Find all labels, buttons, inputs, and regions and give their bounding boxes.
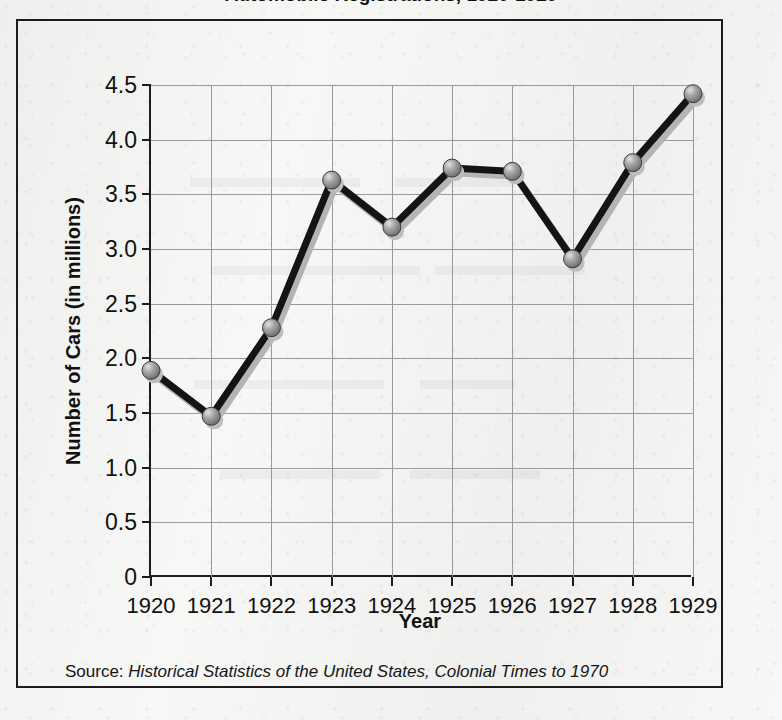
figure-frame: 00.51.01.52.02.53.03.54.04.5 19201921192… bbox=[16, 19, 723, 688]
y-tick-mark bbox=[142, 357, 151, 359]
source-note: Source: Historical Statistics of the Uni… bbox=[65, 662, 608, 682]
y-tick-mark bbox=[142, 84, 151, 86]
data-point-marker[interactable]: 1922: 2.28 bbox=[262, 319, 280, 337]
y-axis-title: Number of Cars (in millions) bbox=[62, 85, 88, 577]
chart-title: Automobile Registrations, 1920-1929 bbox=[0, 0, 782, 6]
data-point-marker[interactable]: 1920: 1.89 bbox=[142, 361, 160, 379]
x-tick-mark bbox=[692, 577, 694, 586]
y-tick-label: 1.0 bbox=[105, 454, 137, 481]
source-reference: Historical Statistics of the United Stat… bbox=[128, 662, 608, 681]
data-point-marker[interactable]: 1928: 3.79 bbox=[624, 154, 642, 172]
chart-page: Automobile Registrations, 1920-1929 00.5… bbox=[0, 0, 782, 720]
y-tick-label: 2.5 bbox=[105, 290, 137, 317]
x-tick-mark bbox=[632, 577, 634, 586]
data-point-marker[interactable]: 1929: 4.42 bbox=[684, 85, 702, 103]
y-tick-mark bbox=[142, 303, 151, 305]
data-point-marker[interactable]: 1926: 3.71 bbox=[503, 162, 521, 180]
y-tick-mark bbox=[142, 193, 151, 195]
x-tick-mark bbox=[451, 577, 453, 586]
y-tick-mark bbox=[142, 412, 151, 414]
x-tick-mark bbox=[391, 577, 393, 586]
y-tick-label: 3.0 bbox=[105, 236, 137, 263]
data-point-marker[interactable]: 1927: 2.91 bbox=[564, 250, 582, 268]
y-tick-label: 4.0 bbox=[105, 126, 137, 153]
y-tick-label: 4.5 bbox=[105, 72, 137, 99]
data-series-line: 1920: 1.891921: 1.471922: 2.281923: 3.63… bbox=[151, 85, 693, 577]
y-tick-label: 0.5 bbox=[105, 509, 137, 536]
x-tick-mark bbox=[331, 577, 333, 586]
series-markers: 1920: 1.891921: 1.471922: 2.281923: 3.63… bbox=[142, 85, 705, 430]
data-point-marker[interactable]: 1923: 3.63 bbox=[323, 171, 341, 189]
data-point-marker[interactable]: 1921: 1.47 bbox=[202, 407, 220, 425]
data-point-marker[interactable]: 1925: 3.74 bbox=[443, 159, 461, 177]
y-tick-label: 0 bbox=[124, 564, 137, 591]
x-tick-mark bbox=[150, 577, 152, 586]
x-tick-mark bbox=[210, 577, 212, 586]
source-label: Source: bbox=[65, 662, 124, 681]
y-tick-mark bbox=[142, 467, 151, 469]
x-tick-mark bbox=[572, 577, 574, 586]
y-tick-mark bbox=[142, 139, 151, 141]
x-tick-mark bbox=[511, 577, 513, 586]
y-tick-mark bbox=[142, 248, 151, 250]
gridline-vertical bbox=[693, 85, 694, 577]
y-tick-label: 2.0 bbox=[105, 345, 137, 372]
x-tick-mark bbox=[270, 577, 272, 586]
y-tick-label: 3.5 bbox=[105, 181, 137, 208]
x-axis-title: Year bbox=[149, 610, 691, 633]
series-line-shadow bbox=[155, 99, 697, 422]
y-tick-label: 1.5 bbox=[105, 400, 137, 427]
data-point-marker[interactable]: 1924: 3.2 bbox=[383, 218, 401, 236]
series-line-path bbox=[151, 94, 693, 417]
y-tick-mark bbox=[142, 521, 151, 523]
plot-area: 00.51.01.52.02.53.03.54.04.5 19201921192… bbox=[149, 85, 691, 577]
